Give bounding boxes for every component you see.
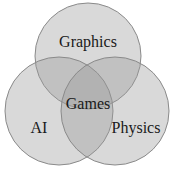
venn-diagram: Graphics AI Physics Games (0, 0, 175, 172)
games-label: Games (66, 95, 110, 112)
ai-label: AI (31, 119, 48, 136)
graphics-label: Graphics (59, 33, 117, 51)
physics-label: Physics (112, 119, 161, 137)
